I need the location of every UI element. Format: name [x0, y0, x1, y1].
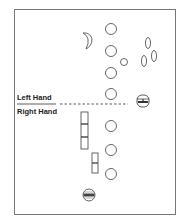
moon-icon [83, 33, 92, 49]
circle-group [106, 24, 128, 180]
circle-icon [106, 169, 117, 180]
circle-icon [106, 121, 117, 132]
circle-icon [106, 89, 117, 100]
tall-bar-icon [81, 112, 88, 149]
oval-icon [152, 51, 157, 62]
oval-icon [146, 38, 151, 49]
oval-group [142, 38, 157, 67]
round-symbol-icon [83, 189, 95, 201]
oval-icon [142, 56, 147, 67]
circle-icon [106, 145, 117, 156]
circle-icon [106, 24, 117, 35]
small-circle-icon [121, 59, 128, 66]
circle-icon [106, 46, 117, 57]
short-bar-icon [92, 153, 98, 173]
lozenge-symbol-icon [137, 95, 149, 107]
diagram-canvas [0, 0, 188, 223]
circle-icon [106, 68, 117, 79]
